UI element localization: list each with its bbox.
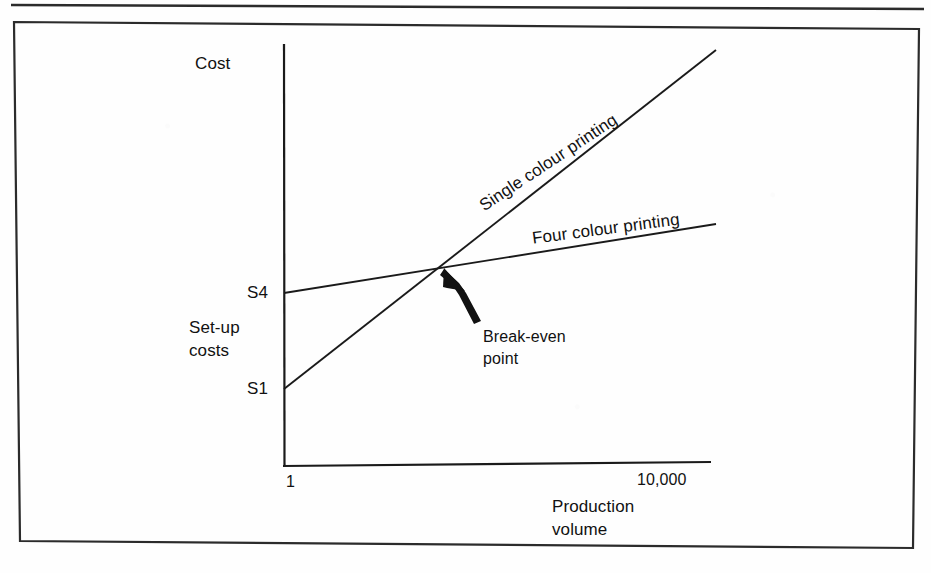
break-even-chart-svg (0, 0, 931, 573)
x-axis-title-line1: Production (552, 497, 634, 517)
setup-costs-label-line1: Set-up (189, 318, 240, 338)
break-even-label-line1: Break-even (483, 328, 566, 347)
y-axis-title: Cost (195, 54, 230, 74)
x-tick-label-10000: 10,000 (637, 471, 687, 490)
y-axis-line (284, 44, 285, 466)
y-intercept-label-s4: S4 (247, 283, 268, 303)
setup-costs-label-line2: costs (189, 341, 229, 361)
break-even-label-line2: point (483, 350, 518, 369)
x-axis-title-line2: volume (552, 520, 607, 540)
x-tick-label-1: 1 (286, 473, 295, 492)
page-top-rule (11, 5, 924, 9)
series-line-four-colour (284, 224, 716, 293)
figure-frame (14, 22, 919, 548)
break-even-arrowhead-icon (443, 268, 465, 291)
y-intercept-label-s1: S1 (247, 379, 268, 399)
x-axis-line (283, 462, 711, 466)
figure-page: Cost S4 S1 Set-up costs Single colour pr… (0, 0, 931, 573)
